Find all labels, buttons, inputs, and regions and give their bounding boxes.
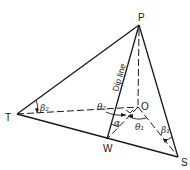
- label-beta1: β₁: [160, 125, 170, 135]
- label-o: O: [141, 101, 149, 112]
- arrowheads: [35, 108, 168, 143]
- label-theta2: θ₂: [97, 102, 106, 112]
- label-p: P: [138, 12, 145, 23]
- edge-p-s: [139, 25, 178, 157]
- edge-t-s: [17, 114, 178, 157]
- label-s: S: [181, 157, 188, 168]
- solid-edges: [17, 25, 178, 157]
- diagram-svg: P O T W S Dip line β₂ β₁ θ₂ θ₁ α: [0, 0, 190, 170]
- right-angle-marker: [126, 110, 133, 113]
- edge-o-w: [108, 107, 138, 138]
- label-dip-line: Dip line: [110, 62, 128, 92]
- dip-line-diagram: P O T W S Dip line β₂ β₁ θ₂ θ₁ α: [0, 0, 190, 170]
- theta2-arrowhead: [121, 113, 126, 117]
- edge-p-o: [138, 29, 139, 105]
- label-theta1: θ₁: [135, 122, 144, 132]
- label-beta2: β₂: [39, 103, 49, 113]
- beta2-arrowhead: [35, 108, 39, 113]
- label-w: W: [103, 143, 113, 154]
- label-alpha: α: [114, 118, 120, 128]
- label-t: T: [5, 112, 11, 123]
